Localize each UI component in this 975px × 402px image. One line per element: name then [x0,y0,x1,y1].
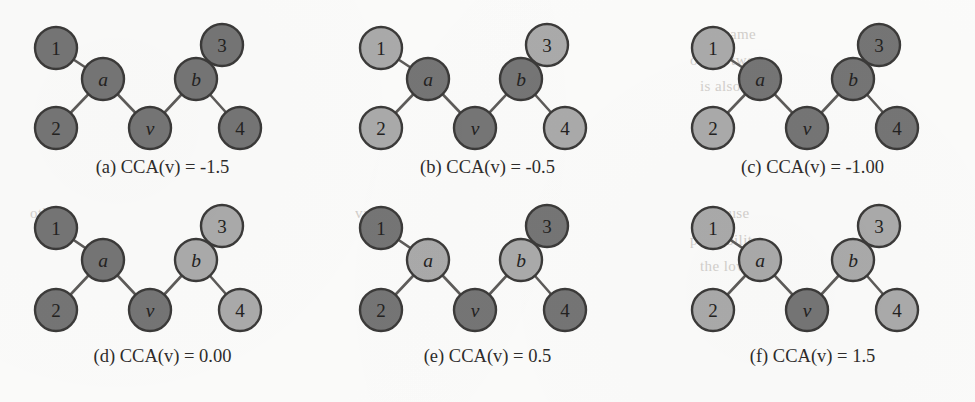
graph-b: 1 2 a v b 3 4 [325,0,650,160]
node-2-label: 2 [708,118,718,139]
node-2-label: 2 [708,300,718,321]
node-v-label: v [146,118,155,139]
subfigure-e: 1 2 a v b 3 4 (e) CCA(v) = 0.5 [325,198,650,399]
graph-e: 1 2 a v b 3 4 [325,198,650,358]
nodes-f: 1 2 a v b 3 4 [692,205,918,331]
node-3-label: 3 [874,216,884,237]
node-3-label: 3 [217,35,227,56]
node-3-label: 3 [217,216,227,237]
node-2-label: 2 [376,300,386,321]
subfigure-caption-d: (d) CCA(v) = 0.00 [0,346,325,367]
subfigure-caption-f: (f) CCA(v) = 1.5 [650,346,975,367]
node-a-label: a [423,250,433,271]
node-1-label: 1 [51,38,61,59]
node-1-label: 1 [51,218,61,239]
node-b-label: b [191,69,201,90]
node-2-label: 2 [51,300,61,321]
node-4-label: 4 [560,300,570,321]
node-3-label: 3 [542,216,552,237]
node-3-label: 3 [542,35,552,56]
node-v-label: v [471,118,480,139]
node-4-label: 4 [235,118,245,139]
nodes-e: 1 2 a v b 3 4 [360,205,586,331]
subfigure-a: 1 2 a v b 3 4 (a) CCA(v) = -1.5 [0,0,325,201]
nodes-d: 1 2 a v b 3 4 [35,205,261,331]
node-2-label: 2 [51,118,61,139]
node-a-label: a [755,250,765,271]
graph-d: 1 2 a v b 3 4 [0,198,325,358]
subfigure-caption-b: (b) CCA(v) = -0.5 [325,157,650,178]
subfigure-caption-e: (e) CCA(v) = 0.5 [325,346,650,367]
node-1-label: 1 [708,218,718,239]
graph-svg-c: 1 2 a v b 3 4 [650,0,975,160]
node-v-label: v [146,300,155,321]
node-1-label: 1 [376,38,386,59]
node-b-label: b [191,250,201,271]
node-4-label: 4 [892,118,902,139]
node-1-label: 1 [708,38,718,59]
node-a-label: a [423,69,433,90]
subfigure-caption-a: (a) CCA(v) = -1.5 [0,157,325,178]
subfigure-c: 1 2 a v b 3 4 (c) CCA(v) = -1.00 [650,0,975,201]
graph-c: 1 2 a v b 3 4 [650,0,975,160]
node-a-label: a [98,69,108,90]
graph-f: 1 2 a v b 3 4 [650,198,975,358]
node-b-label: b [848,69,858,90]
nodes-a: 1 2 a v b 3 4 [35,24,261,149]
subfigure-f: 1 2 a v b 3 4 (f) CCA(v) = 1.5 [650,198,975,399]
figure-page: { "figure": { "title": "CCA(v) example g… [0,0,975,402]
subfigure-b: 1 2 a v b 3 4 (b) CCA(v) = -0.5 [325,0,650,201]
node-2-label: 2 [376,118,386,139]
subfigure-d: 1 2 a v b 3 4 (d) CCA(v) = 0.00 [0,198,325,399]
node-4-label: 4 [235,300,245,321]
graph-svg-d: 1 2 a v b 3 4 [0,198,325,358]
subfigure-caption-c: (c) CCA(v) = -1.00 [650,157,975,178]
node-b-label: b [516,250,526,271]
node-3-label: 3 [874,35,884,56]
figure-grid: 1 2 a v b 3 4 (a) CCA(v) = -1.5 [0,0,975,402]
nodes-c: 1 2 a v b 3 4 [692,24,918,149]
graph-svg-e: 1 2 a v b 3 4 [325,198,650,358]
graph-svg-b: 1 2 a v b 3 4 [325,0,650,160]
node-a-label: a [98,250,108,271]
node-v-label: v [803,118,812,139]
node-4-label: 4 [892,300,902,321]
node-a-label: a [755,69,765,90]
node-1-label: 1 [376,218,386,239]
node-v-label: v [803,300,812,321]
node-b-label: b [516,69,526,90]
node-4-label: 4 [560,118,570,139]
graph-svg-f: 1 2 a v b 3 4 [650,198,975,358]
nodes-b: 1 2 a v b 3 4 [360,24,586,149]
graph-a: 1 2 a v b 3 4 [0,0,325,160]
node-v-label: v [471,300,480,321]
node-b-label: b [848,250,858,271]
graph-svg-a: 1 2 a v b 3 4 [0,0,325,160]
